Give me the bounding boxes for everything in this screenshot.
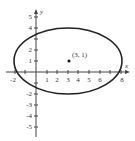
svg-text:2: 2 (29, 46, 33, 54)
x-axis-label: x (124, 62, 129, 70)
svg-text:6: 6 (98, 76, 102, 84)
y-axis-arrow-icon (34, 9, 38, 14)
svg-text:4: 4 (29, 24, 33, 32)
svg-text:-2: -2 (10, 76, 16, 84)
svg-text:2: 2 (55, 76, 59, 84)
ellipse-diagram: x y -2 1 2 3 4 5 6 8 5 4 2 1 -2 -3 -4 -5… (0, 0, 135, 141)
y-axis-label: y (39, 8, 44, 16)
svg-text:5: 5 (87, 76, 91, 84)
svg-text:-4: -4 (26, 112, 32, 120)
svg-text:-5: -5 (26, 123, 32, 131)
svg-text:1: 1 (29, 57, 33, 65)
svg-text:3: 3 (66, 76, 70, 84)
svg-text:4: 4 (76, 76, 80, 84)
svg-text:1: 1 (45, 76, 49, 84)
center-point (68, 60, 71, 63)
center-point-label: (3, 1) (72, 51, 88, 59)
svg-text:5: 5 (29, 13, 33, 21)
svg-text:-3: -3 (26, 101, 32, 109)
x-axis-arrow-icon (125, 70, 130, 74)
svg-text:-2: -2 (26, 90, 32, 98)
svg-text:8: 8 (120, 76, 124, 84)
